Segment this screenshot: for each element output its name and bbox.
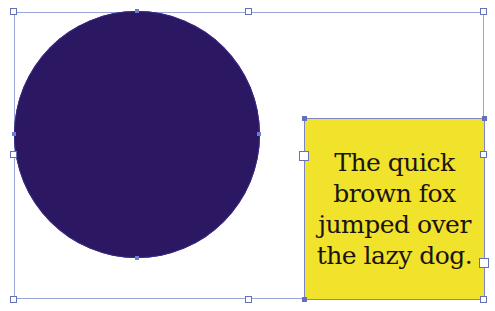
ellipse-anchor-top[interactable] xyxy=(135,9,139,13)
handle-bottom-left[interactable] xyxy=(10,296,17,303)
text-frame-corner-bottom-left xyxy=(302,297,307,302)
text-frame-corner-top-right xyxy=(482,116,487,121)
text-in-port[interactable] xyxy=(299,151,309,161)
ellipse-anchor-left[interactable] xyxy=(12,132,16,136)
text-frame-corner-top-left xyxy=(302,116,307,121)
text-frame-content[interactable]: The quick brown fox jumped over the lazy… xyxy=(317,147,473,271)
text-out-port[interactable] xyxy=(479,258,489,268)
ellipse-shape[interactable] xyxy=(14,11,260,258)
handle-bottom-right[interactable] xyxy=(480,296,487,303)
text-line-1: The quick xyxy=(334,148,454,177)
text-frame[interactable]: The quick brown fox jumped over the lazy… xyxy=(304,118,485,300)
text-line-2: brown fox xyxy=(333,179,455,208)
handle-top-middle[interactable] xyxy=(245,8,252,15)
handle-middle-right[interactable] xyxy=(480,151,487,158)
handle-top-left[interactable] xyxy=(10,8,17,15)
text-line-3: jumped over xyxy=(318,210,471,239)
text-line-4: the lazy dog. xyxy=(317,241,473,270)
ellipse-anchor-right[interactable] xyxy=(257,132,261,136)
handle-middle-left[interactable] xyxy=(10,151,17,158)
handle-bottom-middle[interactable] xyxy=(245,296,252,303)
ellipse-anchor-bottom[interactable] xyxy=(135,256,139,260)
handle-top-right[interactable] xyxy=(480,8,487,15)
